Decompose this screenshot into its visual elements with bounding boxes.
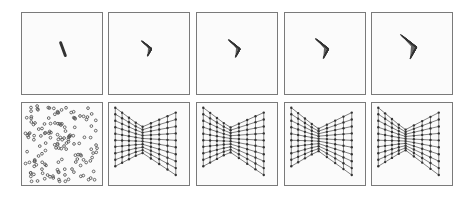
grid-plot bbox=[197, 103, 277, 185]
grid-plot bbox=[109, 103, 189, 185]
grid-plot bbox=[372, 13, 452, 94]
grid-plot bbox=[109, 13, 189, 94]
grid-plot bbox=[372, 103, 452, 185]
collapsed-grid-row-panel-5 bbox=[371, 12, 453, 95]
grid-plot bbox=[285, 103, 365, 185]
collapsed-grid-row-panel-2 bbox=[108, 12, 190, 95]
collapsed-grid-row-panel-1 bbox=[21, 12, 103, 95]
grid-plot bbox=[285, 13, 365, 94]
expanded-grid-row-panel-1 bbox=[21, 102, 103, 186]
collapsed-grid-row-panel-3 bbox=[196, 12, 278, 95]
collapsed-grid-row-panel-4 bbox=[284, 12, 366, 95]
expanded-grid-row-panel-5 bbox=[371, 102, 453, 186]
grid-plot bbox=[197, 13, 277, 94]
expanded-grid-row-panel-3 bbox=[196, 102, 278, 186]
grid-plot bbox=[22, 13, 102, 94]
expanded-grid-row-panel-2 bbox=[108, 102, 190, 186]
expanded-grid-row-panel-4 bbox=[284, 102, 366, 186]
grid-plot bbox=[22, 103, 102, 185]
